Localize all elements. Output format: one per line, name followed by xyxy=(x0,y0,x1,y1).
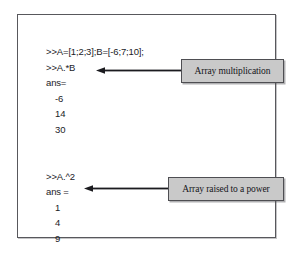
console-line-result-value: 14 xyxy=(46,106,176,122)
console-line-result-value: 1 xyxy=(46,200,176,216)
callout-array-multiplication: Array multiplication xyxy=(181,59,284,83)
callout-label: Array multiplication xyxy=(195,66,271,76)
console-line-command-assign: >>A=[1;2;3];B=[-6;7;10]; xyxy=(46,44,176,60)
console-line-result-value: 30 xyxy=(46,122,176,138)
leader-arrow-to-multiplication-icon xyxy=(96,66,182,75)
console-block-spacer xyxy=(46,138,176,169)
callout-array-raised-to-a-power: Array raised to a power xyxy=(168,177,284,201)
console-block-array-multiplication: >>A=[1;2;3];B=[-6;7;10]; >>A.*B ans= -6 … xyxy=(46,44,176,138)
console-block-array-power: >>A.^2 ans = 1 4 9 xyxy=(46,169,176,247)
console-line-command-elementwise-power: >>A.^2 xyxy=(46,169,176,185)
callout-label: Array raised to a power xyxy=(182,184,269,194)
console-line-ans-label-1: ans= xyxy=(46,75,176,91)
console-line-result-value: 4 xyxy=(46,215,176,231)
figure-frame: >>A=[1;2;3];B=[-6;7;10]; >>A.*B ans= -6 … xyxy=(17,14,276,238)
console-line-result-value: -6 xyxy=(46,91,176,107)
leader-arrow-to-power-icon xyxy=(84,184,169,193)
console-line-result-value: 9 xyxy=(46,231,176,247)
